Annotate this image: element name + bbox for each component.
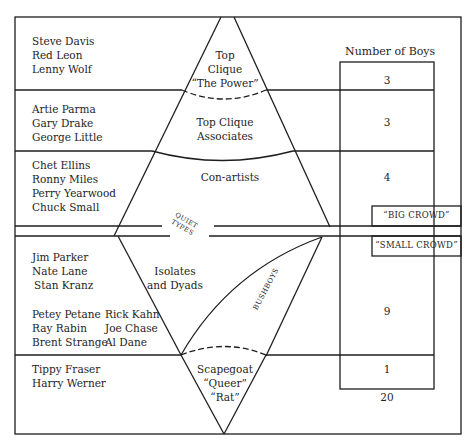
dashed-arc-scapegoat bbox=[181, 347, 266, 356]
bushboys-curve bbox=[181, 237, 322, 355]
label-top-clique: Top Clique “The Power” bbox=[190, 48, 260, 90]
small-crowd-label: “SMALL CROWD” bbox=[372, 240, 461, 250]
count-associates: 3 bbox=[340, 116, 434, 128]
number-of-boys-header: Number of Boys bbox=[345, 45, 435, 59]
label-associates: Top Clique Associates bbox=[185, 115, 265, 143]
group-isolates-names-b: Petey Petane Ray Rabin Brent Strange bbox=[32, 307, 108, 349]
dashed-arc-power bbox=[182, 90, 266, 99]
label-isolates: Isolates and Dyads bbox=[145, 264, 205, 292]
label-con-artists: Con-artists bbox=[190, 170, 270, 184]
total-count: 20 bbox=[340, 391, 434, 403]
group-con-artists-names: Chet Ellins Ronny Miles Perry Yearwood C… bbox=[32, 158, 116, 214]
label-scapegoat: Scapegoat “Queer” “Rat” bbox=[190, 362, 260, 404]
arc-associates bbox=[152, 151, 293, 161]
big-crowd-label: “BIG CROWD” bbox=[372, 210, 461, 220]
count-scapegoat: 1 bbox=[340, 363, 434, 375]
group-scapegoat-names: Tippy Fraser Harry Werner bbox=[32, 362, 106, 390]
group-isolates-names-c: Rick Kahn Joe Chase Al Dane bbox=[105, 307, 159, 349]
count-top-clique: 3 bbox=[340, 74, 434, 86]
count-con-artists: 4 bbox=[340, 171, 434, 183]
group-top-clique-names: Steve Davis Red Leon Lenny Wolf bbox=[32, 34, 94, 76]
group-associates-names: Artie Parma Gary Drake George Little bbox=[32, 102, 103, 144]
group-isolates-names-a: Jim Parker Nate Lane Stan Kranz bbox=[32, 250, 93, 292]
lower-triangle-right bbox=[266, 237, 322, 356]
count-isolates: 9 bbox=[340, 305, 434, 317]
